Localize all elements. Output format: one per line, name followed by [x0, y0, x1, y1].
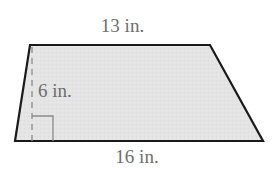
bottom-base-label: 16 in. [0, 147, 274, 166]
trapezoid-figure: 13 in. 6 in. 16 in. [0, 0, 274, 169]
height-label: 6 in. [38, 81, 72, 100]
top-base-label: 13 in. [0, 16, 245, 35]
